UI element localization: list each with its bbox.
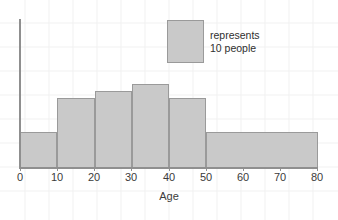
histogram-bar	[132, 84, 169, 168]
histogram-bar	[206, 132, 318, 168]
x-tick-label: 50	[194, 171, 218, 183]
x-tick-label: 0	[8, 171, 32, 183]
histogram-bar	[57, 98, 94, 168]
y-axis-line	[19, 19, 21, 168]
histogram-bar	[20, 132, 57, 168]
x-tick-label: 80	[305, 171, 329, 183]
x-tick-label: 10	[45, 171, 69, 183]
legend-text-line1: represents	[210, 29, 260, 42]
x-tick-label: 30	[119, 171, 143, 183]
x-tick-label: 70	[268, 171, 292, 183]
histogram-bar	[95, 91, 132, 168]
histogram-figure: 0 10 20 30 40 50 60 70 80 Age represents…	[0, 0, 338, 220]
legend: represents 10 people	[167, 20, 260, 63]
x-tick-label: 20	[82, 171, 106, 183]
legend-text: represents 10 people	[210, 29, 260, 54]
x-tick-label: 40	[157, 171, 181, 183]
x-tick-label: 60	[231, 171, 255, 183]
histogram-bar	[169, 98, 206, 168]
x-axis-title: Age	[0, 190, 338, 202]
plot-area: 0 10 20 30 40 50 60 70 80 Age represents…	[0, 0, 338, 220]
legend-swatch	[167, 20, 204, 63]
legend-text-line2: 10 people	[210, 42, 260, 55]
